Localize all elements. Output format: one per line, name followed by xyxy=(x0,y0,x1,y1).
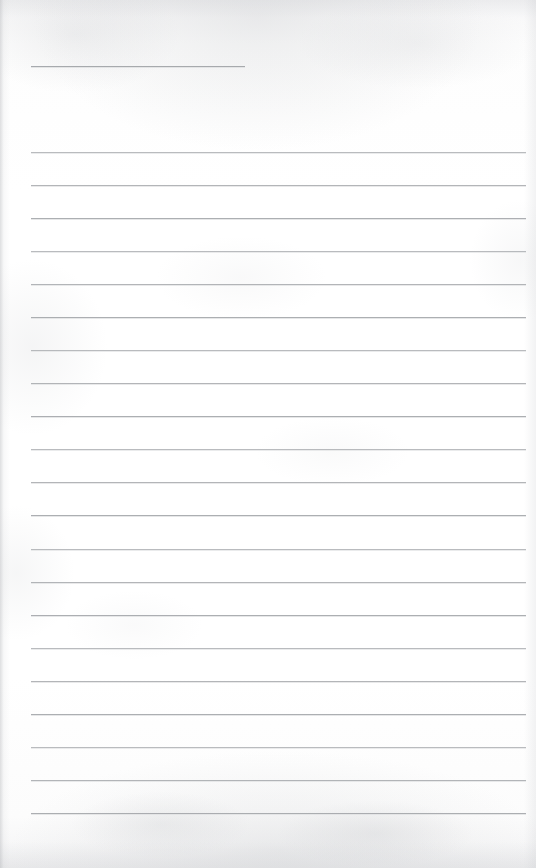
ruled-line xyxy=(31,615,526,616)
ruled-line xyxy=(31,780,526,781)
ruled-line xyxy=(31,549,526,550)
ruled-line xyxy=(31,813,526,814)
header-short-rule xyxy=(31,66,245,67)
ruled-line xyxy=(31,218,526,219)
ruled-lines-area xyxy=(0,0,536,868)
ruled-line xyxy=(31,582,526,583)
ruled-line xyxy=(31,449,526,450)
ruled-line xyxy=(31,350,526,351)
scanned-page xyxy=(0,0,536,868)
ruled-line xyxy=(31,251,526,252)
ruled-line xyxy=(31,714,526,715)
ruled-line xyxy=(31,152,526,153)
ruled-line xyxy=(31,482,526,483)
ruled-line xyxy=(31,416,526,417)
ruled-line xyxy=(31,383,526,384)
ruled-line xyxy=(31,185,526,186)
ruled-line xyxy=(31,747,526,748)
ruled-line xyxy=(31,515,526,516)
ruled-line xyxy=(31,317,526,318)
ruled-line xyxy=(31,648,526,649)
ruled-line xyxy=(31,284,526,285)
ruled-line xyxy=(31,681,526,682)
